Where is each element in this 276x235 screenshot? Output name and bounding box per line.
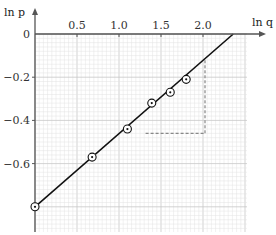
- y-tick-label: 0: [23, 28, 30, 41]
- x-tick-label: 0.5: [68, 19, 86, 32]
- grid: [35, 34, 247, 232]
- data-point-circled-dot-icon: [88, 153, 96, 161]
- y-tick-label: −0.6: [3, 158, 30, 171]
- x-axis-label: ln q: [252, 16, 273, 29]
- chart: 0.51.01.52.00−0.2−0.4−0.6 ln q ln p: [0, 0, 276, 235]
- x-tick-label: 1.0: [110, 19, 128, 32]
- data-point-circled-dot-icon: [182, 75, 190, 83]
- data-point-circled-dot-icon: [31, 203, 39, 211]
- y-tick-label: −0.2: [3, 71, 30, 84]
- x-tick-label: 2.0: [194, 19, 212, 32]
- data-point-circled-dot-icon: [148, 99, 156, 107]
- gradient-triangle: [146, 60, 205, 133]
- x-axis-arrow-icon: [259, 31, 266, 37]
- y-tick-label: −0.4: [3, 114, 30, 127]
- data-point-circled-dot-icon: [166, 88, 174, 96]
- data-point-circled-dot-icon: [123, 125, 131, 133]
- x-tick-label: 1.5: [152, 19, 170, 32]
- y-axis-arrow-icon: [32, 8, 38, 15]
- y-axis-label: ln p: [4, 6, 25, 19]
